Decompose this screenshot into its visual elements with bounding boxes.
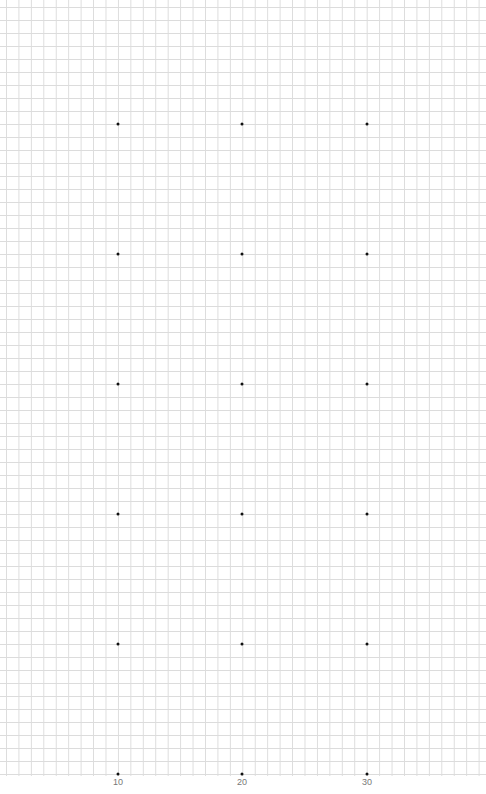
grid-dot [117, 383, 120, 386]
grid-dot [117, 773, 120, 776]
grid-dot [241, 253, 244, 256]
grid-dot [241, 643, 244, 646]
grid-dot [366, 643, 369, 646]
grid-dot [366, 773, 369, 776]
x-label-30: 30 [362, 777, 372, 787]
grid-dot [366, 383, 369, 386]
grid-dot [117, 513, 120, 516]
grid-dot [241, 773, 244, 776]
x-label-20: 20 [237, 777, 247, 787]
x-label-10: 10 [113, 777, 123, 787]
grid-dot [241, 513, 244, 516]
grid-dot [241, 123, 244, 126]
grid-dot [117, 643, 120, 646]
grid-canvas[interactable] [0, 0, 486, 776]
grid-dot [117, 123, 120, 126]
grid-dot [366, 513, 369, 516]
grid-dot [366, 253, 369, 256]
grid-dot [366, 123, 369, 126]
grid-dot [241, 383, 244, 386]
grid-dot [117, 253, 120, 256]
